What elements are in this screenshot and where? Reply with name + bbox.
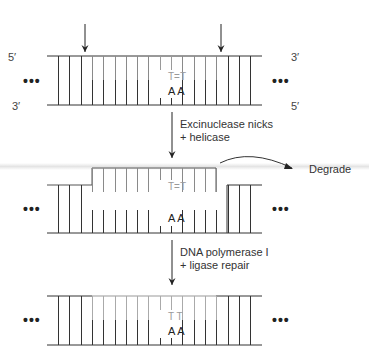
excision-repair-diagram: 5′ 3′ 3′ 5′ ••• ••• T=T A A Excinuclease… — [0, 0, 369, 358]
step-2-line-2: + ligase repair — [180, 259, 250, 271]
panel-1-damaged-dna: 5′ 3′ 3′ 5′ ••• ••• T=T A A — [8, 24, 299, 112]
degrade-arrowhead — [284, 163, 293, 169]
adenine-pair-label: A A — [168, 212, 185, 224]
right-continuation-dots: ••• — [272, 73, 290, 89]
top-left-5prime-label: 5′ — [8, 51, 16, 63]
excised-oligonucleotide-strand — [47, 168, 216, 192]
left-continuation-dots: ••• — [23, 73, 41, 89]
thymine-dimer-label: T=T — [168, 181, 186, 192]
step-1-line-2: + helicase — [180, 131, 230, 143]
bottom-right-5prime-label: 5′ — [291, 100, 299, 112]
thymine-dimer-label: T=T — [168, 71, 186, 82]
panel-2-excision: ••• ••• Degrade T=T A A — [23, 157, 351, 233]
bottom-left-3prime-label: 3′ — [12, 100, 20, 112]
panel-3-repaired-dna: ••• ••• T T A A — [23, 296, 290, 345]
top-right-3prime-label: 3′ — [291, 51, 299, 63]
adenine-pair-label: A A — [168, 85, 185, 97]
step-1-line-1: Excinuclease nicks — [180, 118, 273, 130]
step-2-polymerase-ligase: DNA polymerase I + ligase repair — [172, 240, 269, 285]
step-2-line-1: DNA polymerase I — [180, 246, 269, 258]
panel-2-rungs — [59, 168, 251, 233]
right-continuation-dots: ••• — [272, 201, 290, 217]
adenine-pair-label: A A — [168, 325, 185, 337]
degrade-label: Degrade — [309, 163, 351, 175]
right-continuation-dots: ••• — [272, 312, 290, 328]
repaired-thymine-label: T T — [168, 311, 183, 322]
panel-3-rungs — [59, 296, 251, 345]
step-1-excinuclease: Excinuclease nicks + helicase — [172, 112, 273, 158]
left-continuation-dots: ••• — [23, 312, 41, 328]
degrade-curved-arrow — [220, 157, 292, 168]
panel-1-rungs — [59, 56, 251, 105]
left-continuation-dots: ••• — [23, 201, 41, 217]
